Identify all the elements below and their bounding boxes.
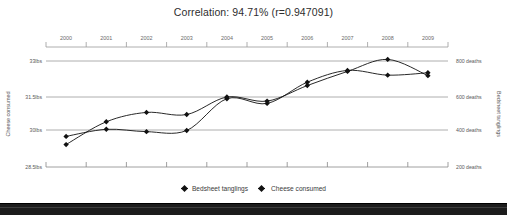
y-axis-left-labels: 33lbs31.5lbs30lbs28.5lbs xyxy=(25,58,42,170)
chart-plot-area: 2000200120022003200420052006200720082009… xyxy=(0,0,507,215)
x-tick-label: 2006 xyxy=(301,35,313,41)
y-tick-label-right: 800 deaths xyxy=(456,58,482,64)
x-tick-label: 2008 xyxy=(382,35,394,41)
y-tick-label-right: 200 deaths xyxy=(456,164,482,170)
y-axis-right-labels: 800 deaths600 deaths400 deaths200 deaths xyxy=(456,58,482,170)
bottom-bar xyxy=(0,203,507,215)
y-tick-label-right: 600 deaths xyxy=(456,94,482,100)
diamond-marker-icon xyxy=(181,185,188,192)
legend-item-bedsheet-tanglings[interactable]: Bedsheet tanglings xyxy=(181,185,248,192)
series-layer xyxy=(63,57,430,148)
legend-label: Bedsheet tanglings xyxy=(192,185,248,192)
y-tick-label-left: 33lbs xyxy=(30,58,43,64)
data-point-marker xyxy=(184,128,189,133)
x-tick-label: 2000 xyxy=(60,35,72,41)
data-point-marker xyxy=(63,134,68,139)
data-point-marker xyxy=(425,73,430,78)
y-tick-label-left: 28.5lbs xyxy=(25,164,42,170)
chart-page: Correlation: 94.71% (r=0.947091) 2000200… xyxy=(0,0,507,215)
x-tick-label: 2005 xyxy=(261,35,273,41)
data-point-marker xyxy=(63,142,68,147)
y-axis-title-left: Cheese consumed xyxy=(5,92,11,137)
data-point-marker xyxy=(144,110,149,115)
x-tick-label: 2004 xyxy=(221,35,233,41)
legend-item-cheese-consumed[interactable]: Cheese consumed xyxy=(258,185,326,192)
data-point-marker xyxy=(184,112,189,117)
y-tick-label-right: 400 deaths xyxy=(456,127,482,133)
x-tick-label: 2009 xyxy=(422,35,434,41)
y-tick-label-left: 31.5lbs xyxy=(25,94,42,100)
bottom-bar-line xyxy=(0,207,507,208)
chart-legend: Bedsheet tanglings Cheese consumed xyxy=(0,185,507,192)
diamond-marker-icon xyxy=(258,185,265,192)
series-bedsheet-tanglings xyxy=(63,57,430,148)
data-point-marker xyxy=(305,83,310,88)
data-point-marker xyxy=(104,119,109,124)
series-cheese-consumed xyxy=(63,68,430,139)
data-point-marker xyxy=(104,127,109,132)
legend-label: Cheese consumed xyxy=(271,185,326,192)
data-point-marker xyxy=(385,72,390,77)
x-tick-label: 2003 xyxy=(181,35,193,41)
x-tick-label: 2007 xyxy=(342,35,354,41)
x-tick-label: 2001 xyxy=(100,35,112,41)
x-tick-label: 2002 xyxy=(141,35,153,41)
data-point-marker xyxy=(345,69,350,74)
x-axis: 2000200120022003200420052006200720082009 xyxy=(46,35,448,167)
y-axis-title-right: Bedsheet tanglings xyxy=(496,91,502,137)
y-tick-label-left: 30lbs xyxy=(30,127,43,133)
